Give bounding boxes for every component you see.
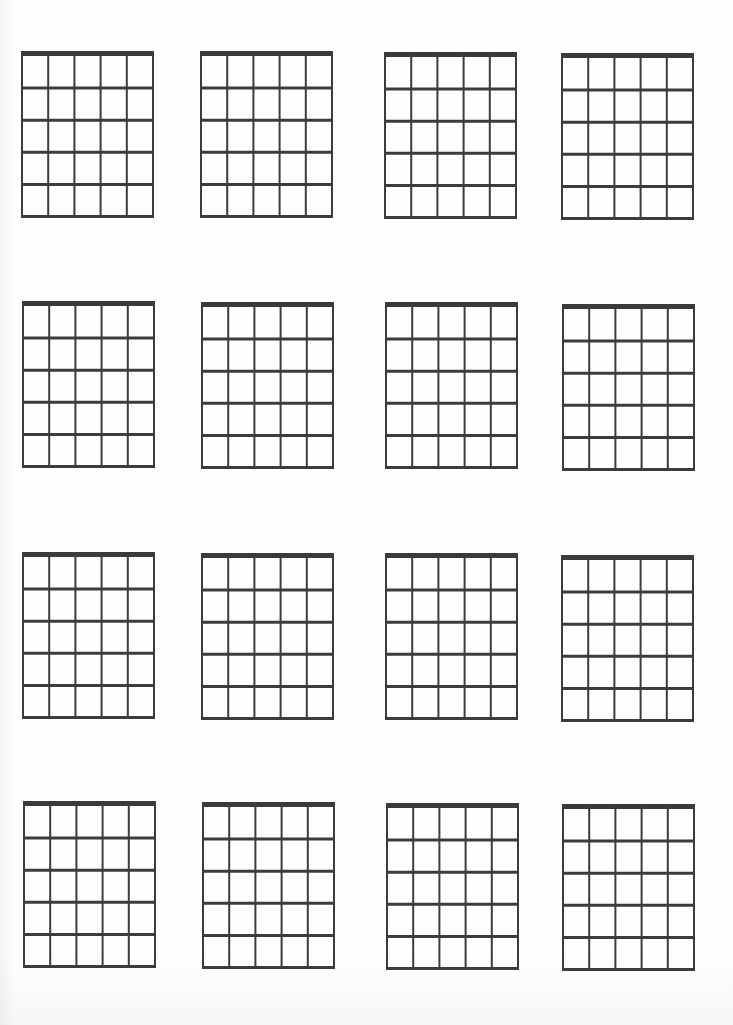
chord-diagram-grid — [21, 51, 154, 218]
chord-diagram-grid — [201, 302, 334, 469]
nut-bar — [201, 302, 334, 307]
chord-diagram-grid — [561, 555, 694, 722]
nut-bar — [21, 51, 154, 56]
nut-bar — [385, 302, 518, 307]
chord-diagram-r3-c3 — [385, 553, 518, 720]
chord-diagram-r1-c2 — [200, 51, 333, 218]
chord-diagram-r1-c4 — [561, 53, 694, 220]
chord-diagram-grid — [200, 51, 333, 218]
chord-diagram-grid — [22, 301, 155, 468]
nut-bar — [22, 301, 155, 306]
chord-diagram-grid — [22, 552, 155, 719]
chord-diagram-grid — [561, 53, 694, 220]
chord-diagram-grid — [384, 52, 517, 219]
chord-diagram-r2-c2 — [201, 302, 334, 469]
chord-diagram-r4-c3 — [386, 803, 519, 970]
nut-bar — [23, 801, 156, 806]
chord-diagram-grid — [23, 801, 156, 968]
chord-diagram-r3-c1 — [22, 552, 155, 719]
nut-bar — [562, 804, 695, 809]
nut-bar — [201, 553, 334, 558]
chord-diagram-grid — [385, 553, 518, 720]
nut-bar — [386, 803, 519, 808]
chord-diagram-grid — [201, 553, 334, 720]
nut-bar — [22, 552, 155, 557]
chord-chart-page — [0, 0, 733, 1025]
chord-diagram-r3-c4 — [561, 555, 694, 722]
chord-diagram-grid — [562, 304, 695, 471]
chord-diagram-grid — [385, 302, 518, 469]
chord-diagram-r2-c4 — [562, 304, 695, 471]
chord-diagram-grid — [202, 802, 335, 969]
nut-bar — [561, 53, 694, 58]
chord-diagram-r4-c4 — [562, 804, 695, 971]
chord-diagram-r1-c1 — [21, 51, 154, 218]
nut-bar — [385, 553, 518, 558]
chord-diagram-r4-c1 — [23, 801, 156, 968]
chord-diagram-grid — [562, 804, 695, 971]
nut-bar — [562, 304, 695, 309]
nut-bar — [202, 802, 335, 807]
chord-diagram-r4-c2 — [202, 802, 335, 969]
chord-diagram-r3-c2 — [201, 553, 334, 720]
chord-diagram-grid — [386, 803, 519, 970]
nut-bar — [200, 51, 333, 56]
nut-bar — [561, 555, 694, 560]
nut-bar — [384, 52, 517, 57]
chord-diagram-r1-c3 — [384, 52, 517, 219]
chord-diagram-r2-c3 — [385, 302, 518, 469]
chord-diagram-r2-c1 — [22, 301, 155, 468]
